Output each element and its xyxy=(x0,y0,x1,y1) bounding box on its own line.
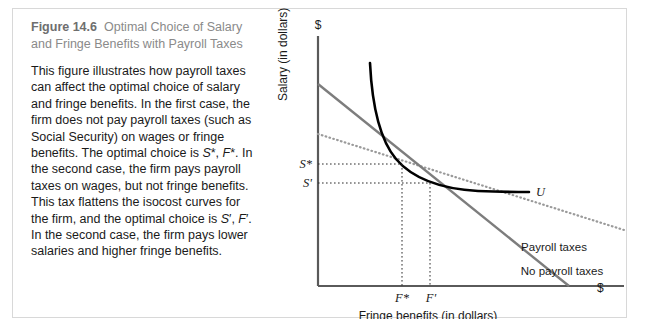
x-tick-label-f-star: F* xyxy=(394,291,410,305)
isocost-payroll-taxes xyxy=(318,134,624,230)
chart-plot-area: Salary (in dollars) $ $ U S* S' xyxy=(268,9,628,319)
figure-container: Figure 14.6 Optimal Choice of Salary and… xyxy=(12,8,627,318)
indifference-curve-u xyxy=(370,63,529,192)
x-tick-label-f-prime: F' xyxy=(425,291,437,305)
y-tick-label-s-prime: S' xyxy=(303,176,312,190)
y-tick-label-s-star: S* xyxy=(300,157,313,171)
x-axis-title: Fringe benefits (in dollars) xyxy=(359,309,498,319)
x-axis-dollar-label: $ xyxy=(597,281,604,295)
figure-title: Figure 14.6 Optimal Choice of Salary and… xyxy=(31,19,256,52)
figure-number: Figure 14.6 xyxy=(31,20,97,34)
annotation-payroll-taxes: Payroll taxes xyxy=(521,241,587,253)
y-axis-title: Salary (in dollars) xyxy=(276,8,290,101)
figure-body-text: This figure illustrates how payroll taxe… xyxy=(31,63,256,260)
curve-label-u: U xyxy=(536,185,546,199)
y-axis-dollar-label: $ xyxy=(315,18,322,32)
annotation-no-payroll-taxes: No payroll taxes xyxy=(521,265,604,277)
figure-caption: Figure 14.6 Optimal Choice of Salary and… xyxy=(31,19,256,260)
